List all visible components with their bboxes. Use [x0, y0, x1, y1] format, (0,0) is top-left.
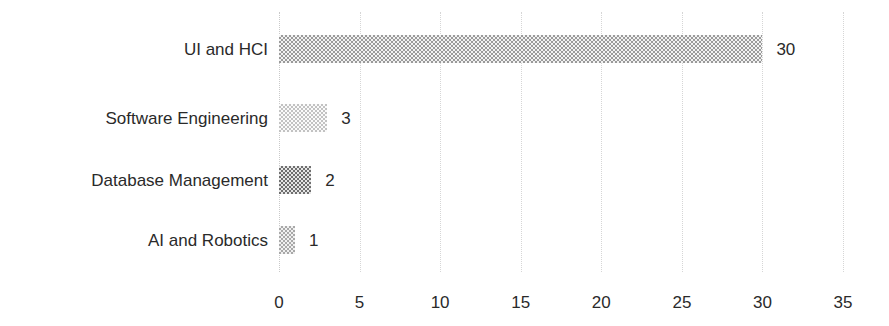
bar-software-engineering: [279, 104, 327, 132]
xtick-label-35: 35: [834, 294, 853, 311]
gridline-30: [762, 12, 763, 272]
xtick-label-15: 15: [511, 294, 530, 311]
bar-ai-and-robotics: [279, 226, 295, 254]
xtick-label-5: 5: [355, 294, 364, 311]
xtick-label-10: 10: [431, 294, 450, 311]
value-label-software-engineering: 3: [341, 110, 350, 127]
plot-area: 30 3 2 1 0 5 10 15 20 25 30 35: [279, 12, 843, 272]
horizontal-bar-chart: UI and HCI Software Engineering Database…: [0, 0, 889, 326]
bar-database-management: [279, 166, 311, 194]
bar-ui-and-hci: [279, 35, 762, 63]
category-label-ai-and-robotics: AI and Robotics: [148, 232, 268, 249]
gridline-35: [843, 12, 844, 272]
category-label-database-management: Database Management: [91, 172, 268, 189]
category-label-software-engineering: Software Engineering: [105, 110, 268, 127]
xtick-label-0: 0: [274, 294, 283, 311]
xtick-label-20: 20: [592, 294, 611, 311]
xtick-label-25: 25: [672, 294, 691, 311]
xtick-label-30: 30: [753, 294, 772, 311]
category-label-ui-and-hci: UI and HCI: [184, 41, 268, 58]
value-label-ai-and-robotics: 1: [309, 232, 318, 249]
value-label-ui-and-hci: 30: [776, 41, 795, 58]
value-label-database-management: 2: [325, 172, 334, 189]
